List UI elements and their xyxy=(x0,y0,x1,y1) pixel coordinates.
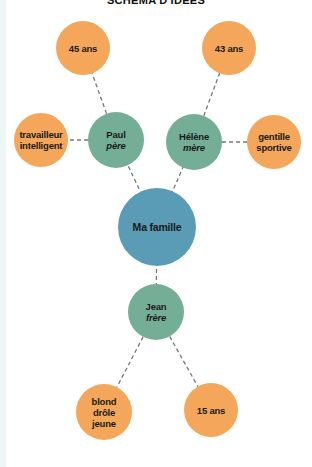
node-ma-famille: Ma famille xyxy=(118,188,196,266)
node-helene: Hélène mère xyxy=(166,114,222,170)
node-text: drôle xyxy=(93,407,115,418)
node-role: frère xyxy=(146,312,166,323)
node-text: sportive xyxy=(256,142,291,153)
node-label: Jean xyxy=(146,301,167,312)
node-jean-traits: blond drôle jeune xyxy=(76,384,132,440)
node-text: 43 ans xyxy=(215,43,243,54)
node-label: Ma famille xyxy=(133,222,182,233)
node-jean: Jean frère xyxy=(128,284,184,340)
node-paul-age: 45 ans xyxy=(56,21,110,75)
node-text: gentille xyxy=(258,131,290,142)
node-jean-age: 15 ans xyxy=(184,383,238,437)
node-helene-traits: gentille sportive xyxy=(247,115,301,169)
node-role: mère xyxy=(183,142,205,153)
node-text: 45 ans xyxy=(69,43,97,54)
node-helene-age: 43 ans xyxy=(202,21,256,75)
node-text: 15 ans xyxy=(197,405,225,416)
node-text: travailleur xyxy=(19,129,62,140)
node-paul-traits: travailleur intelligent xyxy=(14,113,68,167)
node-paul: Paul père xyxy=(88,112,144,168)
node-text: jeune xyxy=(92,418,116,429)
node-label: Hélène xyxy=(179,131,209,142)
node-label: Paul xyxy=(106,129,125,140)
node-text: blond xyxy=(92,396,117,407)
node-text: intelligent xyxy=(20,140,63,151)
node-role: père xyxy=(106,140,125,151)
